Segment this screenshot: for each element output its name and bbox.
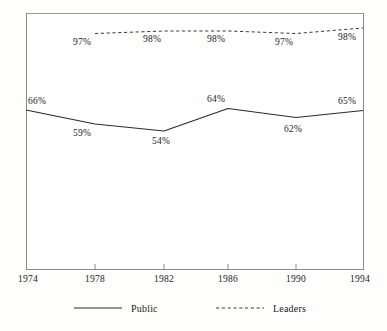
legend-label-leaders: Leaders xyxy=(273,303,306,314)
data-label-public-1974: 66% xyxy=(28,96,46,106)
data-label-public-1990: 62% xyxy=(284,124,302,134)
data-label-leaders-1978: 97% xyxy=(73,37,91,47)
data-label-public-1994: 65% xyxy=(338,96,356,106)
series-lines-layer xyxy=(0,0,387,331)
legend-swatch-solid-line-icon xyxy=(74,303,122,313)
legend-swatch-dashed-line-icon xyxy=(216,303,264,313)
data-label-public-1982: 54% xyxy=(152,136,170,146)
x-axis-tick-label-1978: 1978 xyxy=(85,274,105,284)
legend-item-leaders: Leaders xyxy=(216,300,306,316)
data-label-public-1986: 64% xyxy=(207,94,225,104)
data-label-leaders-1986: 98% xyxy=(207,34,225,44)
x-axis-tick-label-1990: 1990 xyxy=(286,274,306,284)
legend-item-public: Public xyxy=(74,300,158,316)
data-label-leaders-1990: 97% xyxy=(275,37,293,47)
x-axis-ticks xyxy=(95,264,296,270)
chart-legend: Public Leaders xyxy=(26,300,364,318)
x-axis-tick-label-1994: 1994 xyxy=(350,274,370,284)
legend-label-public: Public xyxy=(131,303,158,314)
x-axis-tick-label-1986: 1986 xyxy=(218,274,238,284)
data-label-public-1978: 59% xyxy=(73,128,91,138)
series-line-leaders xyxy=(95,28,363,34)
line-chart: 97% 98% 98% 97% 98% 66% 59% 54% 64% 62% … xyxy=(0,0,387,331)
data-label-leaders-1994: 98% xyxy=(338,32,356,42)
data-label-leaders-1982: 98% xyxy=(143,34,161,44)
x-axis-tick-label-1974: 1974 xyxy=(18,274,38,284)
x-axis-tick-label-1982: 1982 xyxy=(154,274,174,284)
